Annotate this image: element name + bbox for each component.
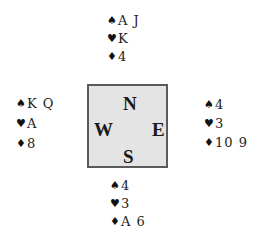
west-hearts-row: ♥ A (16, 114, 55, 134)
compass-south-label: S (123, 147, 134, 166)
north-spades-cards: A J (118, 12, 140, 30)
north-diamonds-cards: 4 (118, 48, 127, 66)
north-hand: ♠ A J ♥ K ♦ 4 (107, 12, 140, 66)
south-hearts-row: ♥ 3 (110, 195, 146, 213)
south-diamonds-cards: A 6 (121, 213, 146, 231)
spade-icon: ♠ (107, 12, 118, 30)
west-diamonds-cards: 8 (27, 134, 36, 154)
north-diamonds-row: ♦ 4 (107, 48, 140, 66)
diamond-icon: ♦ (107, 48, 118, 66)
east-hand: ♠ 4 ♥ 3 ♦ 10 9 (204, 95, 248, 152)
diamond-icon: ♦ (204, 133, 215, 152)
south-hand: ♠ 4 ♥ 3 ♦ A 6 (110, 177, 146, 231)
spade-icon: ♠ (16, 94, 27, 114)
compass-box: N W E S (87, 84, 168, 168)
heart-icon: ♥ (16, 114, 27, 134)
west-diamonds-row: ♦ 8 (16, 134, 55, 154)
west-spades-row: ♠ K Q (16, 94, 55, 114)
north-spades-row: ♠ A J (107, 12, 140, 30)
east-hearts-cards: 3 (215, 114, 224, 133)
east-spades-row: ♠ 4 (204, 95, 248, 114)
south-hearts-cards: 3 (121, 195, 130, 213)
east-hearts-row: ♥ 3 (204, 114, 248, 133)
west-hand: ♠ K Q ♥ A ♦ 8 (16, 94, 55, 154)
west-hearts-cards: A (27, 114, 37, 134)
south-diamonds-row: ♦ A 6 (110, 213, 146, 231)
spade-icon: ♠ (204, 95, 215, 114)
east-spades-cards: 4 (215, 95, 224, 114)
heart-icon: ♥ (204, 114, 215, 133)
south-spades-cards: 4 (121, 177, 130, 195)
west-spades-cards: K Q (27, 94, 55, 114)
compass-west-label: W (94, 120, 113, 139)
north-hearts-cards: K (118, 30, 129, 48)
compass-north-label: N (123, 94, 137, 113)
diamond-icon: ♦ (110, 213, 121, 231)
compass-east-label: E (152, 120, 165, 139)
north-hearts-row: ♥ K (107, 30, 140, 48)
east-diamonds-row: ♦ 10 9 (204, 133, 248, 152)
south-spades-row: ♠ 4 (110, 177, 146, 195)
heart-icon: ♥ (110, 195, 121, 213)
diamond-icon: ♦ (16, 134, 27, 154)
heart-icon: ♥ (107, 30, 118, 48)
east-diamonds-cards: 10 9 (215, 133, 248, 152)
spade-icon: ♠ (110, 177, 121, 195)
